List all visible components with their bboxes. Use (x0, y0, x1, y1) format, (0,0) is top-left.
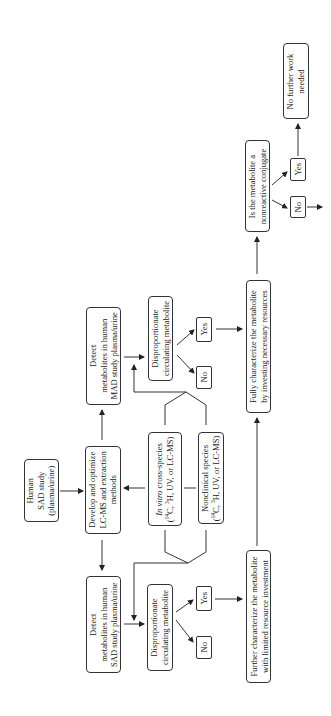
node-nonreactive-conjugate-question: Is the metabolite a nonreactive conjugat… (245, 140, 270, 232)
node-line: No further work (286, 53, 297, 109)
node-line: with limited resource investment (259, 556, 270, 676)
node-disproportionate-mad: Disproportionate circulating metabolite (148, 296, 173, 381)
node-line: Disproportionate (150, 590, 161, 665)
node-line: Nonclinical species (201, 435, 212, 521)
node-line: needed (296, 53, 307, 109)
node-line: Detect (88, 312, 99, 399)
node-line: nonreactive conjugate (258, 148, 269, 224)
node-line: metabolites in human (98, 312, 109, 399)
node-line: circulating metabolite (160, 590, 171, 665)
decision-no-mad: No (196, 366, 212, 389)
node-human-sad-study: Human SAD study (plasma/urine) (24, 459, 59, 522)
node-nonclinical-species: Nonclinical species (14C, 3H, UV, or LC-… (198, 432, 224, 524)
node-develop-methods: Develop and optimize LC-MS and extractio… (85, 446, 121, 534)
node-line: (plasma/urine) (47, 465, 58, 515)
node-in-vitro-cross-species: In vitro cross-species (14C, 3H, UV, or … (148, 432, 182, 526)
node-no-further-work: No further work needed (283, 43, 309, 119)
node-line: SAD study (36, 465, 47, 515)
node-line: (14C, 3H, UV, or LC-MS) (165, 436, 176, 522)
decision-yes-mad: Yes (196, 317, 212, 342)
node-detect-sad: Detect metabolites in human SAD study pl… (86, 576, 121, 673)
node-line: Fully characterize the metabolite (248, 290, 259, 403)
node-further-characterize: Further characterize the metabolite with… (246, 550, 271, 683)
decision-yes-conjugate: Yes (290, 158, 306, 181)
node-line: Detect (88, 582, 99, 667)
node-line: metabolites in human (98, 582, 109, 667)
node-line: LC-MS and extraction (98, 451, 109, 528)
node-line: by investing necessary resources (259, 290, 270, 403)
node-line: In vitro cross-species (155, 436, 166, 522)
node-line: circulating metabolite (161, 301, 172, 376)
decision-yes-sad: Yes (196, 586, 212, 611)
node-line: Is the metabolite a (247, 148, 258, 224)
node-line: Disproportionate (150, 301, 161, 376)
node-line: Human (26, 465, 37, 515)
node-fully-characterize: Fully characterize the metabolite by inv… (246, 280, 271, 413)
node-detect-mad: Detect metabolites in human MAD study pl… (86, 307, 121, 405)
node-line: SAD study plasma/urine (109, 582, 120, 667)
node-line: Develop and optimize (87, 451, 98, 528)
node-line: Further characterize the metabolite (248, 556, 259, 676)
node-line: (14C, 3H, UV, or LC-MS) (211, 435, 222, 521)
node-line: methods (108, 451, 119, 528)
decision-no-conjugate: No (290, 196, 306, 218)
decision-no-sad: No (196, 636, 212, 659)
node-disproportionate-sad: Disproportionate circulating metabolite (147, 584, 173, 671)
node-line: MAD study plasma/urine (109, 312, 120, 399)
